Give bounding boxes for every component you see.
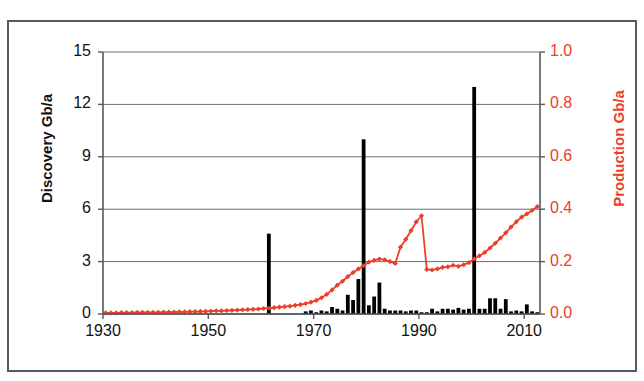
production-marker <box>203 309 208 314</box>
discovery-bar <box>446 309 450 314</box>
discovery-bar <box>457 308 461 314</box>
production-marker <box>235 307 240 312</box>
discovery-bar <box>483 309 487 314</box>
y2-axis-tick-label: 0.4 <box>550 199 600 217</box>
production-marker <box>440 265 445 270</box>
y-axis-tick-label: 9 <box>51 147 91 165</box>
y-axis-tick-label: 0 <box>51 304 91 322</box>
discovery-bar <box>351 300 355 314</box>
discovery-bar <box>441 309 445 314</box>
discovery-bar <box>504 299 508 314</box>
discovery-bar <box>362 139 366 314</box>
production-marker <box>298 302 303 307</box>
discovery-bar <box>430 309 434 314</box>
discovery-bar <box>335 309 339 314</box>
production-marker <box>308 300 313 305</box>
production-marker <box>256 306 261 311</box>
production-marker <box>229 308 234 313</box>
discovery-bar <box>267 234 271 314</box>
production-marker <box>103 310 108 315</box>
production-marker <box>272 305 277 310</box>
production-marker <box>451 263 456 268</box>
discovery-bar <box>378 283 382 314</box>
production-marker <box>261 306 266 311</box>
y2-axis-tick-label: 1.0 <box>550 42 600 60</box>
y2-axis-tick-label: 0.8 <box>550 94 600 112</box>
production-marker <box>277 305 282 310</box>
discovery-bar <box>525 304 529 314</box>
discovery-bar <box>499 309 503 314</box>
production-marker <box>208 309 213 314</box>
y2-axis-tick-label: 0.0 <box>550 304 600 322</box>
discovery-bar <box>472 87 476 314</box>
x-axis-tick-label: 1950 <box>173 322 243 340</box>
y2-axis-tick-label: 0.6 <box>550 147 600 165</box>
discovery-bar <box>383 309 387 314</box>
production-marker <box>303 301 308 306</box>
production-marker <box>287 304 292 309</box>
y-axis-tick-label: 6 <box>51 199 91 217</box>
production-marker <box>293 303 298 308</box>
y-axis-tick-label: 3 <box>51 252 91 270</box>
discovery-bar <box>478 309 482 314</box>
production-marker <box>224 308 229 313</box>
production-marker <box>245 307 250 312</box>
discovery-bar <box>467 309 471 314</box>
discovery-bar <box>367 305 371 314</box>
x-axis-tick-label: 1970 <box>279 322 349 340</box>
discovery-bar <box>356 279 360 314</box>
production-marker <box>282 304 287 309</box>
x-axis-tick-label: 2010 <box>489 322 559 340</box>
y-axis-title-right: Production Gb/a <box>610 59 627 239</box>
discovery-bar <box>372 297 376 314</box>
production-marker <box>372 258 377 263</box>
discovery-bar <box>346 295 350 314</box>
y-axis-tick-label: 15 <box>51 42 91 60</box>
production-marker <box>435 266 440 271</box>
production-marker <box>429 267 434 272</box>
production-marker <box>108 310 113 315</box>
production-marker <box>240 307 245 312</box>
production-marker <box>214 308 219 313</box>
chart-figure: Discovery Gb/a Production Gb/a 036912150… <box>0 0 644 381</box>
y-axis-tick-label: 12 <box>51 94 91 112</box>
production-marker <box>424 267 429 272</box>
x-axis-tick-label: 1990 <box>384 322 454 340</box>
production-marker <box>250 307 255 312</box>
production-marker <box>114 310 119 315</box>
discovery-bar <box>488 298 492 314</box>
production-marker <box>445 264 450 269</box>
discovery-bar <box>493 298 497 314</box>
production-marker <box>198 309 203 314</box>
discovery-bar <box>330 307 334 314</box>
production-marker <box>377 256 382 261</box>
production-marker <box>219 308 224 313</box>
y2-axis-tick-label: 0.2 <box>550 252 600 270</box>
x-axis-tick-label: 1930 <box>68 322 138 340</box>
production-marker <box>387 259 392 264</box>
production-marker <box>456 264 461 269</box>
production-marker <box>461 262 466 267</box>
